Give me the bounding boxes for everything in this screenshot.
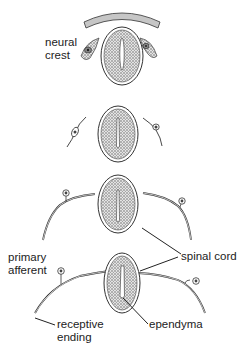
label-neural-crest-line1: neural	[45, 36, 77, 49]
stage-2	[67, 106, 162, 162]
label-ependyma: ependyma	[149, 318, 203, 331]
migrating-cell-right	[143, 118, 162, 146]
stage-4	[35, 253, 205, 325]
label-neural-crest: neural crest	[45, 36, 77, 62]
spinal-cord-leader-1	[142, 228, 181, 254]
neural-tube-1	[101, 27, 143, 85]
spinal-cord	[104, 253, 140, 313]
label-primary-afferent: primary afferent	[8, 251, 47, 277]
stage-3	[43, 175, 191, 254]
neural-tube-3	[98, 175, 138, 233]
sensory-neuron-left	[43, 190, 95, 240]
label-primary-afferent-line1: primary	[8, 251, 47, 264]
label-receptive-ending-line1: receptive	[57, 318, 104, 331]
label-neural-crest-line2: crest	[45, 49, 77, 62]
receptive-ending-leader	[35, 318, 55, 325]
spinal-cord-leader-2	[140, 257, 178, 271]
label-spinal-cord: spinal cord	[181, 250, 237, 263]
diagram-canvas	[0, 0, 245, 351]
label-receptive-ending: receptive ending	[57, 318, 104, 344]
stage-1	[81, 13, 160, 85]
ectoderm-arc	[84, 13, 160, 28]
label-receptive-ending-line2: ending	[57, 331, 104, 344]
neural-crest-left	[81, 38, 99, 60]
migrating-cell-left	[67, 117, 86, 147]
neural-tube-2	[98, 106, 138, 162]
label-primary-afferent-line2: afferent	[8, 264, 47, 277]
ependyma-canal	[120, 266, 125, 298]
